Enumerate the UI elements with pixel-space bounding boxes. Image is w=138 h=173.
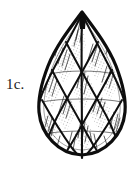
figure-page: 1c. xyxy=(0,0,138,173)
gem-illustration xyxy=(0,0,138,173)
gem-illustration-svg xyxy=(0,0,138,173)
